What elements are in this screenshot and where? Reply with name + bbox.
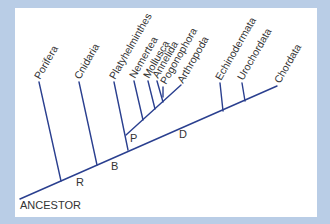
branch-porifera <box>39 82 61 181</box>
branch-annelida <box>157 81 163 102</box>
branch-cnidaria <box>79 82 97 165</box>
trunk-line <box>20 86 277 199</box>
figure-frame: Porifera Cnidaria Platyhelminthes Nemert… <box>0 0 330 224</box>
taxon-label: Cnidaria <box>71 41 101 81</box>
node-label-p: P <box>130 132 137 144</box>
branch-nemertea <box>134 81 143 120</box>
node-label-d: D <box>179 128 187 140</box>
branch-echinodermata <box>220 83 223 111</box>
protostome-trunk <box>126 85 181 135</box>
taxon-label: Porifera <box>31 43 60 81</box>
branch-urochordata <box>242 83 245 101</box>
cladogram: Porifera Cnidaria Platyhelminthes Nemert… <box>0 0 330 224</box>
node-label-b: B <box>111 160 118 172</box>
branch-platyhelminthes <box>114 82 128 150</box>
taxon-label: Chordata <box>271 41 303 85</box>
node-label-r: R <box>76 176 84 188</box>
ancestor-label: ANCESTOR <box>20 199 81 211</box>
branch-mollusca <box>148 81 155 109</box>
